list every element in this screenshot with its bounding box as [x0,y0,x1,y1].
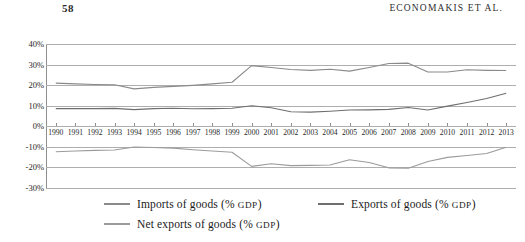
y-tick-label: 30% [2,60,44,70]
y-tick-label: -20% [2,162,44,172]
legend-label-net-exports: Net exports of goods (% GDP) [137,218,280,230]
x-tick-label: 2000 [244,128,259,137]
x-tick-label: 2010 [440,128,455,137]
x-tick-label: 1995 [146,128,161,137]
x-tick-label: 2009 [420,128,435,137]
legend-item-net-exports: Net exports of goods (% GDP) [104,218,280,230]
y-tick-label: -10% [2,142,44,152]
y-tick-label: 40% [2,39,44,49]
y-tick-label: -30% [2,183,44,193]
x-tick-label: 1992 [87,128,102,137]
x-tick-label: 1991 [68,128,83,137]
x-tick-label: 1998 [205,128,220,137]
x-tick-label: 1997 [185,128,200,137]
page-number: 58 [62,2,74,14]
x-tick-label: 2001 [264,128,279,137]
series-paths [46,44,516,188]
legend-item-imports: Imports of goods (% GDP) [104,198,262,210]
x-tick-label: 2012 [479,128,494,137]
chart-legend: Imports of goods (% GDP) Exports of good… [0,196,525,240]
x-tick-label: 1996 [166,128,181,137]
x-tick-label: 1990 [48,128,63,137]
plot-area [46,44,516,188]
running-head: 58 ECONOMAKIS ET AL. [0,0,525,22]
legend-swatch-exports [318,203,344,205]
x-tick-label: 2003 [303,128,318,137]
x-tick-label: 2004 [322,128,337,137]
series-line [56,147,506,168]
x-tick-label: 2007 [381,128,396,137]
legend-label-imports: Imports of goods (% GDP) [137,198,262,210]
running-head-title: ECONOMAKIS ET AL. [389,3,503,13]
y-tick-label: 0% [2,121,44,131]
x-tick-label: 1993 [107,128,122,137]
legend-item-exports: Exports of goods (% GDP) [318,198,476,210]
x-tick-label: 2011 [460,128,475,137]
line-chart: 40%30%20%10%0%-10%-20%-30% 1990199119921… [0,28,525,196]
x-tick-label: 2002 [283,128,298,137]
legend-swatch-net-exports [104,223,130,225]
y-axis-labels: 40%30%20%10%0%-10%-20%-30% [0,44,44,188]
gridline-neg30pct [46,188,516,189]
x-axis-labels: 1990199119921993199419951996199719981999… [46,128,516,140]
x-tick-label: 2013 [499,128,514,137]
series-line [56,63,506,89]
x-tick-label: 2008 [401,128,416,137]
legend-label-exports: Exports of goods (% GDP) [351,198,476,210]
y-tick-label: 20% [2,80,44,90]
legend-swatch-imports [104,203,130,205]
x-tick-label: 1999 [224,128,239,137]
x-tick-label: 2006 [362,128,377,137]
y-tick-label: 10% [2,101,44,111]
x-tick-label: 2005 [342,128,357,137]
series-line [56,93,506,112]
x-tick-label: 1994 [127,128,142,137]
